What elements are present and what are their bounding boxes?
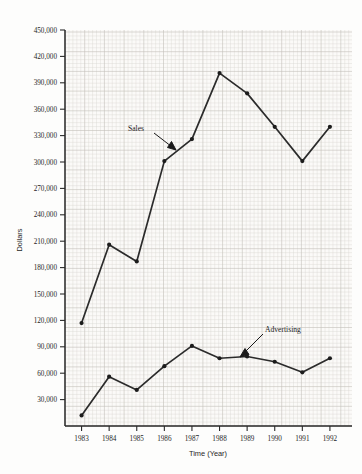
y-axis-title: Dollars [15,228,24,251]
data-point [107,375,111,379]
data-point [190,344,194,348]
y-tick-label: 180,000 [34,264,58,272]
y-tick-label: 60,000 [37,370,57,378]
data-point [300,159,304,163]
data-point [300,370,304,374]
data-point [217,71,221,75]
x-tick-label: 1988 [212,435,227,443]
chart-figure: 450,000420,000390,000360,000330,000300,0… [0,0,362,474]
data-point [135,388,139,392]
data-point [245,91,249,95]
y-axis-ticks: 450,000420,000390,000360,000330,000300,0… [34,27,65,405]
y-tick-label: 420,000 [34,53,58,61]
x-tick-label: 1989 [240,435,255,443]
y-tick-label: 150,000 [34,291,58,299]
x-tick-label: 1992 [323,435,338,443]
line-chart: 450,000420,000390,000360,000330,000300,0… [0,0,362,474]
data-point [217,356,221,360]
data-point [135,259,139,263]
x-axis-title: Time (Year) [189,449,227,458]
x-tick-label: 1987 [185,435,200,443]
data-point [79,321,83,325]
data-point [328,125,332,129]
x-tick-label: 1984 [102,435,117,443]
x-tick-label: 1990 [268,435,283,443]
y-tick-label: 120,000 [34,317,58,325]
y-tick-label: 270,000 [34,185,58,193]
data-point [162,364,166,368]
x-tick-label: 1985 [130,435,145,443]
y-tick-label: 240,000 [34,211,58,219]
y-tick-label: 90,000 [37,343,57,351]
sales-series-label: Sales [128,124,144,133]
y-tick-label: 360,000 [34,106,58,114]
y-tick-label: 390,000 [34,79,58,87]
y-tick-label: 450,000 [34,27,58,35]
data-point [162,159,166,163]
y-tick-label: 210,000 [34,238,58,246]
x-tick-label: 1986 [157,435,172,443]
y-tick-label: 330,000 [34,132,58,140]
data-point [273,360,277,364]
y-tick-label: 30,000 [37,396,57,404]
data-point [79,413,83,417]
data-point [328,356,332,360]
data-point [107,243,111,247]
x-tick-label: 1983 [74,435,89,443]
data-point [273,125,277,129]
x-axis-ticks: 1983198419851986198719881989199019911992 [74,426,337,443]
y-tick-label: 300,000 [34,159,58,167]
advertising-series-label: Advertising [265,325,301,334]
x-tick-label: 1991 [295,435,310,443]
data-point [190,137,194,141]
